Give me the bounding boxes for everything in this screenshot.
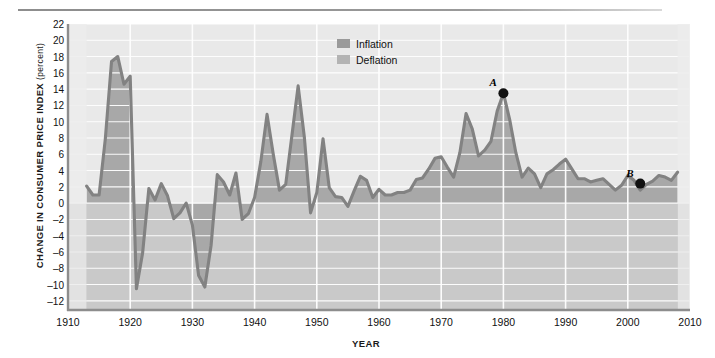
x-tick-label: 1950 [305, 316, 328, 328]
x-tick-label: 1980 [492, 316, 515, 328]
x-tick-label: 1970 [430, 316, 453, 328]
annotation-point-b [635, 179, 645, 189]
annotation-point-a [498, 88, 508, 98]
y-axis-label-unit: (percent) [35, 43, 45, 80]
annotation-label-a: A [489, 76, 496, 88]
legend-swatch-inflation [337, 39, 350, 48]
x-tick-label: 1910 [56, 316, 79, 328]
x-tick-label: 1990 [554, 316, 577, 328]
y-tick-label: –12 [38, 295, 64, 306]
legend-label-inflation: Inflation [356, 38, 393, 50]
y-axis-label: CHANGE IN CONSUMER PRICE INDEX(percent) [34, 31, 45, 281]
x-tick-label: 1960 [367, 316, 390, 328]
x-tick-label: 2010 [678, 316, 701, 328]
y-axis-label-main: CHANGE IN CONSUMER PRICE INDEX [34, 83, 45, 268]
legend-label-deflation: Deflation [356, 54, 397, 66]
y-tick-label: –10 [38, 279, 64, 290]
x-axis-label: YEAR [352, 338, 380, 349]
legend-item-deflation: Deflation [337, 53, 397, 66]
chart-figure: 2220181614121086420–2–4–6–8–10–12 191019… [0, 0, 715, 358]
x-tick-label: 1930 [181, 316, 204, 328]
annotation-label-b: B [626, 167, 633, 179]
x-tick-label: 2000 [616, 316, 639, 328]
legend-swatch-deflation [337, 55, 350, 64]
x-tick-label: 1920 [119, 316, 142, 328]
legend-item-inflation: Inflation [337, 37, 397, 50]
x-tick-label: 1940 [243, 316, 266, 328]
chart-legend: Inflation Deflation [337, 37, 397, 69]
y-tick-label: 22 [38, 19, 64, 30]
